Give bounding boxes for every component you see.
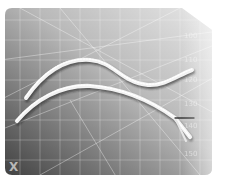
photo: 100 110 120 130 140 150 X bbox=[0, 0, 227, 183]
cutting-mat: 100 110 120 130 140 150 X bbox=[0, 0, 227, 183]
